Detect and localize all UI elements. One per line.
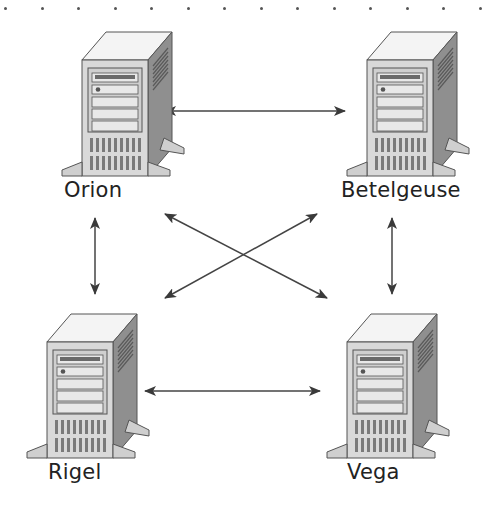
server-label-rigel: Rigel: [48, 460, 102, 484]
server-label-vega: Vega: [347, 460, 400, 484]
server-tower-icon: [345, 28, 475, 178]
server-label-orion: Orion: [64, 178, 122, 202]
server-tower-icon: [25, 310, 155, 460]
server-tower-icon: [325, 310, 455, 460]
server-rigel: [25, 310, 155, 460]
server-tower-icon: [60, 28, 190, 178]
server-label-betelgeuse: Betelgeuse: [341, 178, 461, 202]
server-betelgeuse: [345, 28, 475, 178]
server-orion: [60, 28, 190, 178]
server-vega: [325, 310, 455, 460]
